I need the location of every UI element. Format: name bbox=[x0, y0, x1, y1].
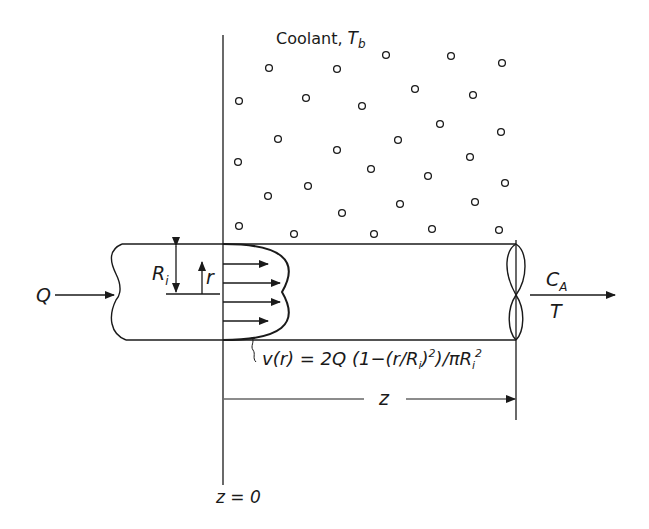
velocity-arrows bbox=[223, 264, 280, 321]
coolant-particle bbox=[437, 121, 444, 128]
coolant-particle bbox=[448, 53, 455, 60]
coolant-particle bbox=[496, 227, 503, 234]
coolant-particle bbox=[303, 95, 310, 102]
equation-leader bbox=[252, 337, 256, 362]
coolant-particle bbox=[395, 137, 402, 144]
velocity-equation: v(r) = 2Q (1−(r/Ri)2)/πRi2 bbox=[262, 347, 482, 372]
radius-label: Ri bbox=[152, 262, 169, 288]
coolant-particle bbox=[334, 66, 341, 73]
coolant-particle bbox=[305, 183, 312, 190]
coolant-particle bbox=[371, 231, 378, 238]
coolant-particle bbox=[397, 201, 404, 208]
coolant-particle bbox=[291, 231, 298, 238]
outlet-temperature-label: T bbox=[550, 300, 563, 322]
reactor-diagram: Q Ri r v(r) = 2Q (1−(r/Ri)2)/πRi2 CA T z… bbox=[0, 0, 649, 529]
coolant-particle bbox=[502, 180, 509, 187]
coolant-particle bbox=[470, 92, 477, 99]
coolant-particle bbox=[339, 210, 346, 217]
radial-coordinate-label: r bbox=[206, 266, 215, 288]
coolant-particle bbox=[498, 129, 505, 136]
outlet-concentration-label: CA bbox=[546, 268, 568, 294]
coolant-particles bbox=[235, 52, 509, 238]
coolant-particle bbox=[236, 98, 243, 105]
origin-label: z = 0 bbox=[215, 487, 261, 507]
coolant-particle bbox=[275, 136, 282, 143]
coolant-particle bbox=[266, 65, 273, 72]
coolant-particle bbox=[412, 86, 419, 93]
axial-distance-label: z bbox=[378, 387, 390, 409]
coolant-particle bbox=[472, 199, 479, 206]
coolant-particle bbox=[368, 166, 375, 173]
coolant-particle bbox=[429, 226, 436, 233]
tube-break-left bbox=[111, 244, 126, 340]
coolant-particle bbox=[359, 103, 366, 110]
coolant-label: Coolant, Tb bbox=[276, 28, 366, 51]
coolant-particle bbox=[425, 173, 432, 180]
coolant-particle bbox=[467, 154, 474, 161]
coolant-particle bbox=[235, 159, 242, 166]
coolant-particle bbox=[236, 223, 243, 230]
coolant-particle bbox=[265, 193, 272, 200]
coolant-particle bbox=[499, 60, 506, 67]
velocity-profile-curve bbox=[223, 244, 289, 340]
coolant-particle bbox=[383, 52, 390, 59]
coolant-particle bbox=[334, 147, 341, 154]
inlet-flow-label: Q bbox=[36, 284, 51, 306]
